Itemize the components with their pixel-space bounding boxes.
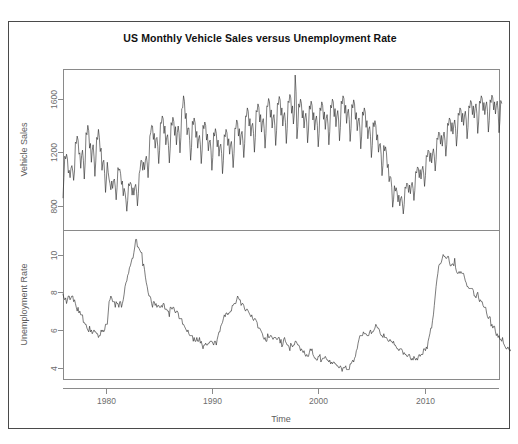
- x-tick-label-2000: 2000: [309, 396, 328, 406]
- y-tick-label-unemployment-rate-10: 10: [49, 251, 59, 261]
- figure-frame: US Monthly Vehicle Sales versus Unemploy…: [8, 21, 510, 429]
- y-tick-label-unemployment-rate-8: 8: [49, 290, 59, 295]
- y-tick-label-unemployment-rate-4: 4: [49, 366, 59, 371]
- x-tick-label-1980: 1980: [97, 396, 116, 406]
- chart-canvas: 80012001600Vehicle Sales46810Unemploymen…: [9, 22, 511, 430]
- x-axis-title: Time: [271, 414, 291, 424]
- y-tick-label-unemployment-rate-6: 6: [49, 328, 59, 333]
- y-axis-title-vehicle-sales: Vehicle Sales: [19, 122, 29, 177]
- y-tick-label-vehicle-sales-1200: 1200: [49, 143, 59, 162]
- panel-vehicle-sales: [64, 70, 500, 231]
- y-tick-label-vehicle-sales-1600: 1600: [49, 90, 59, 109]
- x-tick-label-1990: 1990: [203, 396, 222, 406]
- y-axis-title-unemployment-rate: Unemployment Rate: [19, 263, 29, 345]
- y-tick-label-vehicle-sales-800: 800: [49, 199, 59, 213]
- series-line-unemployment-rate: [63, 239, 511, 371]
- x-tick-label-2010: 2010: [416, 396, 435, 406]
- series-line-vehicle-sales: [63, 75, 502, 214]
